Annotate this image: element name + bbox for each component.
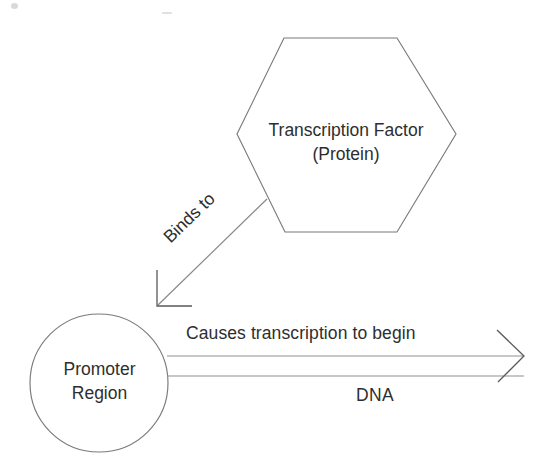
scan-artifact-top-left xyxy=(11,3,18,9)
binds-to-arrow-shaft xyxy=(158,199,267,305)
hexagon-label-line-2: (Protein) xyxy=(246,145,446,165)
transcription-edge-label: Causes transcription to begin xyxy=(186,324,416,344)
dna-strand-label: DNA xyxy=(356,386,394,406)
diagram-canvas: Transcription Factor (Protein) Promoter … xyxy=(0,0,547,472)
circle-label-line-1: Promoter xyxy=(29,360,170,380)
circle-label-line-2: Region xyxy=(29,384,170,404)
hexagon-label-line-1: Transcription Factor xyxy=(246,121,446,141)
scan-artifact-top-middle xyxy=(162,12,172,14)
